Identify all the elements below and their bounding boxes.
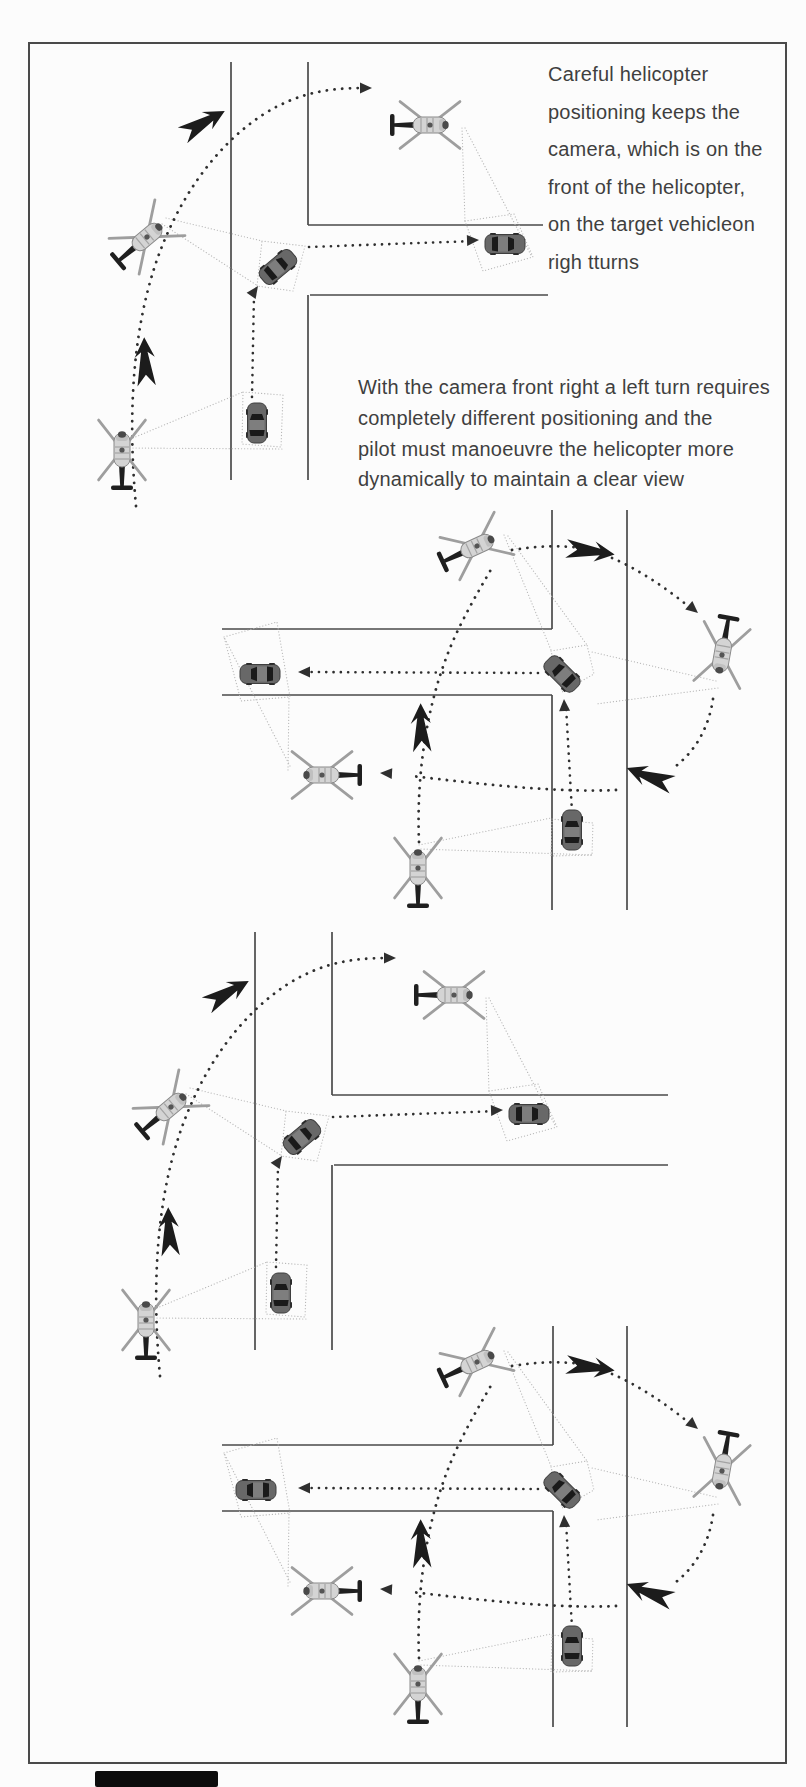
path-arrowhead bbox=[685, 601, 701, 617]
vehicle-path bbox=[276, 1164, 278, 1267]
wheel bbox=[266, 409, 268, 415]
rotor-hub bbox=[119, 447, 124, 452]
wheel bbox=[513, 233, 519, 235]
camera-nose bbox=[442, 121, 448, 129]
tail-boom bbox=[143, 1335, 149, 1356]
windshield bbox=[508, 237, 514, 251]
wheel bbox=[266, 432, 268, 438]
rotor-hub bbox=[451, 992, 456, 997]
helicopter-path bbox=[419, 566, 493, 842]
wheel bbox=[513, 253, 519, 255]
helicopter-path bbox=[512, 546, 580, 550]
vehicle-path bbox=[303, 672, 538, 673]
vehicle-path bbox=[252, 294, 254, 397]
wheel bbox=[290, 1279, 292, 1285]
car-roof bbox=[273, 1290, 288, 1300]
wheel bbox=[514, 1123, 520, 1125]
tail-rotor-icon bbox=[135, 1356, 157, 1361]
wheel bbox=[269, 683, 275, 685]
helicopter-icon bbox=[390, 102, 460, 149]
car-roof bbox=[249, 420, 264, 430]
direction-arrow bbox=[623, 1575, 676, 1610]
diagram-left-turn-top bbox=[222, 510, 752, 910]
rear-window bbox=[263, 1482, 269, 1497]
wheel bbox=[561, 839, 563, 845]
tail-rotor-icon bbox=[111, 486, 133, 491]
car-icon bbox=[236, 1479, 276, 1501]
wheel bbox=[514, 1103, 520, 1105]
camera-cone-ray bbox=[462, 128, 465, 221]
rotor-hub bbox=[427, 122, 432, 127]
camera-cone-ray bbox=[186, 1094, 282, 1156]
car-icon bbox=[561, 810, 583, 850]
path-arrowhead bbox=[559, 1515, 571, 1528]
helicopter-path bbox=[612, 558, 688, 606]
direction-arrow bbox=[177, 102, 229, 144]
wheel bbox=[242, 1499, 248, 1501]
camera-cone-ray bbox=[486, 998, 489, 1091]
helicopter-icon bbox=[292, 752, 362, 799]
camera-cone-ray bbox=[224, 1453, 290, 1582]
rear-window bbox=[516, 1106, 522, 1121]
wheel bbox=[581, 839, 583, 845]
vehicle-path bbox=[333, 1111, 498, 1117]
tail-rotor-icon bbox=[358, 764, 363, 786]
tail-boom bbox=[418, 992, 439, 998]
rear-window bbox=[249, 430, 264, 436]
helicopter-path bbox=[412, 1592, 616, 1607]
wheel bbox=[290, 1302, 292, 1308]
rotor-hub bbox=[415, 1681, 420, 1686]
car-roof bbox=[253, 1482, 263, 1497]
diagram-left-turn-bottom bbox=[222, 1326, 752, 1727]
wheel bbox=[561, 1632, 563, 1638]
camera-nose bbox=[303, 1587, 309, 1595]
helicopter-path bbox=[412, 776, 616, 791]
direction-arrow bbox=[565, 1354, 616, 1379]
car-roof bbox=[564, 827, 579, 837]
vehicle-path bbox=[303, 1488, 538, 1489]
camera-cone-ray bbox=[596, 688, 718, 704]
rear-window bbox=[273, 1300, 288, 1306]
caption-left-turns: With the camera front right a left turn … bbox=[358, 372, 770, 495]
path-arrowhead bbox=[685, 1417, 701, 1433]
car-icon bbox=[540, 1468, 584, 1512]
helicopter-icon bbox=[101, 200, 185, 281]
vehicle-path bbox=[566, 706, 572, 812]
helicopter-icon bbox=[431, 512, 514, 584]
car-icon bbox=[256, 246, 301, 289]
direction-arrow bbox=[623, 759, 676, 794]
windshield bbox=[251, 667, 257, 681]
windshield bbox=[247, 1483, 253, 1497]
helicopter-path bbox=[612, 1374, 688, 1422]
car-roof bbox=[498, 236, 508, 251]
wheel bbox=[246, 432, 248, 438]
car-icon bbox=[561, 1626, 583, 1666]
tail-boom bbox=[394, 122, 415, 128]
wheel bbox=[581, 1632, 583, 1638]
camera-cone-ray bbox=[596, 1504, 718, 1520]
path-arrowhead bbox=[380, 768, 393, 780]
tail-rotor-icon bbox=[407, 1720, 429, 1725]
car-roof bbox=[564, 1643, 579, 1653]
tail-boom bbox=[337, 1588, 358, 1594]
helicopter-icon bbox=[99, 420, 146, 490]
vehicle-path bbox=[309, 241, 474, 247]
wheel bbox=[581, 1655, 583, 1661]
tail-boom bbox=[119, 465, 125, 486]
car-icon bbox=[485, 233, 525, 255]
camera-cone-ray bbox=[504, 535, 551, 650]
direction-arrow bbox=[201, 972, 253, 1014]
camera-cone-ray bbox=[157, 1262, 267, 1308]
wheel bbox=[265, 1479, 271, 1481]
tail-boom bbox=[722, 619, 732, 641]
direction-arrow bbox=[410, 1519, 433, 1569]
car-icon bbox=[240, 663, 280, 685]
camera-cone-ray bbox=[133, 448, 282, 449]
car-roof bbox=[257, 666, 267, 681]
camera-cone-ray bbox=[504, 1351, 551, 1466]
car-icon bbox=[246, 403, 268, 443]
wheel bbox=[490, 233, 496, 235]
camera-cone-ray bbox=[288, 1513, 289, 1586]
rear-window bbox=[492, 236, 498, 251]
wheel bbox=[246, 683, 252, 685]
